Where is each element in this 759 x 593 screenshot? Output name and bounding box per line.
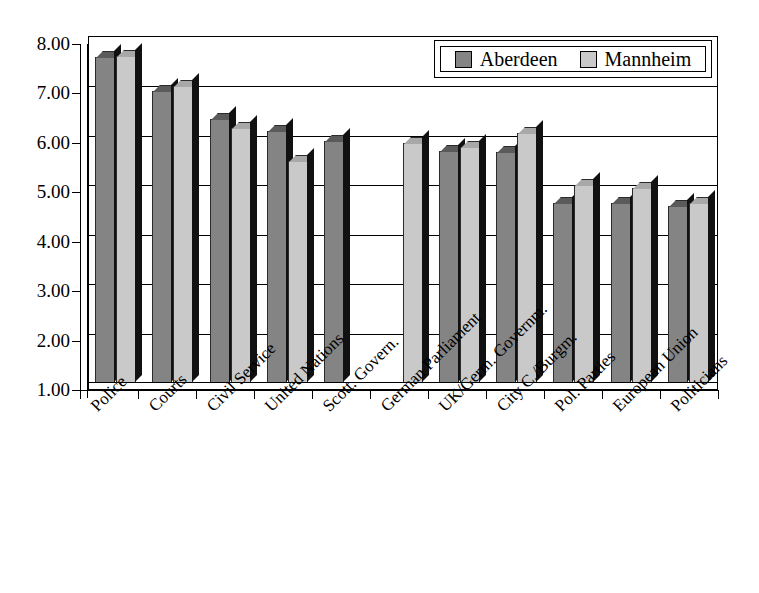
legend-entry: Aberdeen: [455, 49, 558, 69]
legend-label: Mannheim: [605, 49, 692, 69]
x-axis-labels: PoliceCourtsCivil ServiceUnited NationsS…: [0, 0, 759, 593]
chart-figure: 8.007.006.005.004.003.002.001.00 PoliceC…: [0, 0, 759, 593]
legend-swatch: [455, 51, 472, 68]
legend: AberdeenMannheim: [434, 40, 712, 78]
legend-label: Aberdeen: [480, 49, 558, 69]
x-axis-tick-label: German Parliament: [377, 308, 485, 416]
x-axis-tick-label: UK/Germ. Governm.: [435, 300, 552, 417]
x-axis-tick-label: Police: [87, 372, 131, 416]
x-axis-tick-label: Courts: [145, 370, 191, 416]
legend-inner: AberdeenMannheim: [440, 46, 706, 72]
legend-swatch: [580, 51, 597, 68]
legend-entry: Mannheim: [580, 49, 692, 69]
